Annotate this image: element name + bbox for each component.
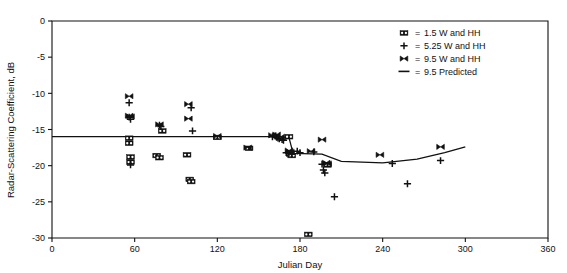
- scatter-plot: 060120180240300360 0-5-10-15-20-25-30 Ju…: [0, 0, 567, 273]
- y-tick-label: -30: [32, 233, 45, 243]
- legend-equals-sign: =: [415, 67, 420, 77]
- y-axis-ticks: 0-5-10-15-20-25-30: [32, 16, 52, 243]
- series-2-markers: [126, 99, 445, 200]
- legend-item-2: =5.25 W and HH: [400, 41, 485, 51]
- legend-item-4: =9.5 Predicted: [399, 67, 478, 77]
- legend-equals-sign: =: [415, 28, 420, 38]
- y-tick-label: -10: [32, 89, 45, 99]
- legend-label: 5.25 W and HH: [424, 41, 486, 51]
- legend-equals-sign: =: [415, 41, 420, 51]
- x-tick-label: 180: [292, 244, 307, 254]
- x-tick-label: 0: [49, 244, 54, 254]
- x-tick-label: 360: [540, 244, 555, 254]
- y-axis-label: Radar-Scattering Coefficient, dB: [5, 62, 16, 198]
- y-tick-label: -25: [32, 197, 45, 207]
- y-tick-label: -5: [37, 52, 45, 62]
- legend-item-1: =1.5 W and HH: [400, 28, 480, 38]
- legend-label: 1.5 W and HH: [424, 28, 481, 38]
- x-tick-label: 240: [375, 244, 390, 254]
- y-tick-label: -20: [32, 161, 45, 171]
- x-axis-ticks: 060120180240300360: [49, 238, 555, 254]
- series-1-markers: [125, 129, 331, 237]
- legend-label: 9.5 Predicted: [424, 67, 477, 77]
- x-axis-label: Julian Day: [278, 259, 323, 270]
- data-series-layer: [125, 94, 444, 237]
- y-tick-label: -15: [32, 125, 45, 135]
- legend: =1.5 W and HH=5.25 W and HH=9.5 W and HH…: [399, 28, 486, 76]
- chart-figure: 060120180240300360 0-5-10-15-20-25-30 Ju…: [0, 0, 567, 273]
- legend-equals-sign: =: [415, 54, 420, 64]
- predicted-line-series: [52, 137, 465, 163]
- series-3-markers: [125, 94, 444, 166]
- x-tick-label: 300: [458, 244, 473, 254]
- y-tick-label: 0: [40, 16, 45, 26]
- legend-label: 9.5 W and HH: [424, 54, 481, 64]
- x-tick-label: 120: [210, 244, 225, 254]
- x-tick-label: 60: [130, 244, 140, 254]
- legend-item-3: =9.5 W and HH: [400, 54, 480, 64]
